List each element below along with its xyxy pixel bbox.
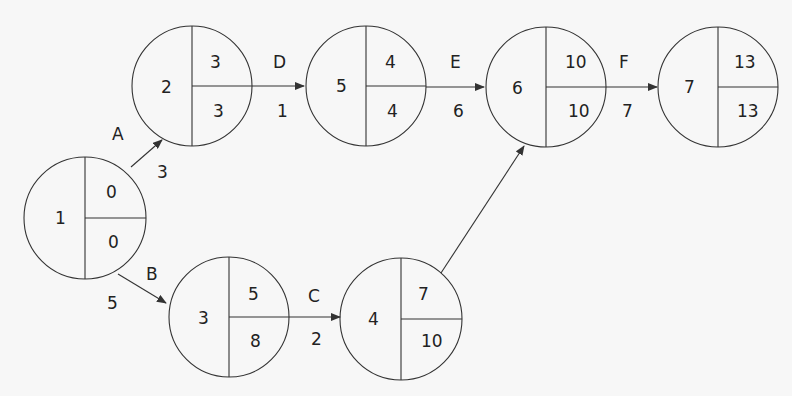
node-4-label: 4 [368,309,379,329]
edge-F-duration: 7 [622,101,633,121]
node-6-label: 6 [512,78,523,98]
node-6-latest: 10 [568,101,590,121]
edge-F-activity: F [619,52,629,72]
network-diagram: A 3 B 5 C 2 D 1 E 6 F 7 1 0 0 2 3 3 3 5 … [0,0,792,396]
node-5-latest: 4 [387,101,398,121]
edge-A-activity: A [112,124,124,144]
node-5: 5 4 4 [306,26,426,146]
node-4: 4 7 10 [340,258,462,380]
node-5-label: 5 [336,76,347,96]
node-7-latest: 13 [737,101,759,121]
node-4-earliest: 7 [418,284,429,304]
edge-C-duration: 2 [311,329,322,349]
edge-D-duration: 1 [277,101,288,121]
edge-B-activity: B [146,264,158,284]
node-1-label: 1 [55,208,66,228]
node-2-label: 2 [161,77,172,97]
edge-C-activity: C [308,286,320,306]
node-7: 7 13 13 [658,27,778,147]
node-7-label: 7 [684,77,695,97]
node-3-earliest: 5 [248,284,259,304]
node-2-latest: 3 [213,101,224,121]
node-4-latest: 10 [421,331,443,351]
node-2-earliest: 3 [210,52,221,72]
edge-A-duration: 3 [157,162,168,182]
node-3-label: 3 [198,308,209,328]
node-3-latest: 8 [250,331,261,351]
node-6: 6 10 10 [486,27,606,147]
node-1-latest: 0 [108,232,119,252]
edge-E-activity: E [450,52,461,72]
node-7-earliest: 13 [734,52,756,72]
edge-B [118,274,166,303]
node-2: 2 3 3 [132,26,252,146]
edge-E-duration: 6 [453,101,464,121]
edge-dummy-4-6 [441,146,524,273]
node-3: 3 5 8 [169,257,289,377]
node-1: 1 0 0 [24,157,146,279]
node-1-earliest: 0 [106,182,117,202]
edge-D-activity: D [273,52,286,72]
edge-B-duration: 5 [107,293,118,313]
node-6-earliest: 10 [565,52,587,72]
node-5-earliest: 4 [385,52,396,72]
